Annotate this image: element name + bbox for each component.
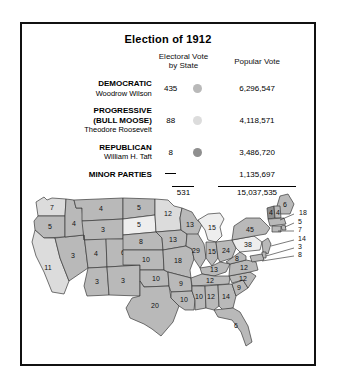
infographic-frame: Election of 1912 Electoral Vote by State… (20, 22, 316, 366)
svg-text:45: 45 (246, 226, 254, 233)
svg-text:3: 3 (71, 252, 75, 259)
candidate-name: Theodore Roosevelt (32, 125, 152, 135)
page-title: Election of 1912 (22, 33, 314, 45)
state-fl (214, 308, 252, 346)
state-ri (281, 225, 286, 230)
svg-text:3: 3 (95, 278, 99, 285)
header-electoral: Electoral Vote by State (157, 52, 210, 75)
table-header-row: Electoral Vote by State Popular Vote (32, 52, 304, 75)
svg-text:12: 12 (164, 210, 172, 217)
svg-text:24: 24 (222, 247, 230, 254)
popular-votes: 3,486,720 (210, 139, 304, 166)
electoral-votes: 88 (157, 102, 185, 139)
svg-text:12: 12 (206, 277, 214, 284)
svg-text:6: 6 (283, 201, 287, 208)
us-electoral-map: 7 5 11 3 4 4 3 4 (22, 186, 314, 362)
party-cell-progressive: PROGRESSIVE (BULL MOOSE) Theodore Roosev… (32, 102, 157, 139)
svg-text:4: 4 (99, 205, 103, 212)
popular-votes: 4,118,571 (210, 102, 304, 139)
table-row: REPUBLICAN William H. Taft 8 3,486,720 (32, 139, 304, 166)
svg-text:29: 29 (192, 247, 200, 254)
svg-text:18: 18 (174, 257, 182, 264)
results-table: Electoral Vote by State Popular Vote DEM… (32, 52, 304, 197)
svg-text:20: 20 (151, 302, 159, 309)
table-row: MINOR PARTIES 1,135,697 (32, 166, 304, 184)
svg-text:5: 5 (48, 223, 52, 230)
header-spacer (32, 52, 157, 75)
color-swatch-cell (185, 166, 211, 184)
svg-text:15: 15 (208, 224, 216, 231)
svg-text:5: 5 (137, 221, 141, 228)
header-popular: Popular Vote (210, 52, 304, 75)
svg-text:7: 7 (50, 204, 54, 211)
color-swatch-cell (185, 139, 211, 166)
color-swatch-democratic (193, 84, 202, 93)
svg-text:14: 14 (222, 293, 230, 300)
party-name: PROGRESSIVE (32, 106, 152, 116)
svg-text:13: 13 (186, 221, 194, 228)
party-name: MINOR PARTIES (32, 170, 152, 180)
state-ne (123, 232, 163, 250)
svg-text:3: 3 (121, 277, 125, 284)
svg-text:13: 13 (210, 266, 218, 273)
popular-votes: 1,135,697 (210, 166, 304, 184)
svg-text:9: 9 (237, 284, 241, 291)
candidate-name: Woodrow Wilson (32, 89, 152, 99)
svg-text:13: 13 (169, 236, 177, 243)
svg-text:15: 15 (208, 248, 216, 255)
svg-text:3: 3 (101, 226, 105, 233)
state-ma (268, 218, 286, 226)
electoral-votes: 435 (157, 75, 185, 102)
svg-text:10: 10 (152, 275, 160, 282)
callout-md: 8 (298, 251, 302, 258)
svg-text:12: 12 (239, 275, 247, 282)
svg-text:4: 4 (72, 220, 76, 227)
callout-ma: 18 (299, 209, 307, 216)
svg-text:4: 4 (94, 250, 98, 257)
party-name: DEMOCRATIC (32, 79, 152, 89)
popular-votes: 6,296,547 (210, 75, 304, 102)
svg-text:4: 4 (276, 209, 280, 216)
svg-text:8: 8 (139, 238, 143, 245)
color-swatch-cell (185, 102, 211, 139)
em-dash-icon (165, 173, 176, 174)
party-cell-democratic: DEMOCRATIC Woodrow Wilson (32, 75, 157, 102)
party-name-line2: (BULL MOOSE) (32, 116, 152, 126)
party-cell-republican: REPUBLICAN William H. Taft (32, 139, 157, 166)
svg-text:10: 10 (142, 256, 150, 263)
svg-text:5: 5 (137, 204, 141, 211)
svg-text:38: 38 (244, 241, 252, 248)
svg-text:6: 6 (234, 322, 238, 329)
svg-text:12: 12 (207, 293, 215, 300)
svg-text:12: 12 (240, 264, 248, 271)
color-swatch-progressive (193, 116, 202, 125)
svg-text:11: 11 (44, 264, 51, 271)
table-row: DEMOCRATIC Woodrow Wilson 435 6,296,547 (32, 75, 304, 102)
svg-text:4: 4 (269, 209, 273, 216)
map-states: 7 5 11 3 4 4 3 4 (32, 194, 294, 346)
candidate-name: William H. Taft (32, 152, 152, 162)
electoral-votes: 8 (157, 139, 185, 166)
callout-ri: 5 (298, 218, 302, 225)
color-swatch-cell (185, 75, 211, 102)
state-md (250, 254, 264, 262)
svg-text:9: 9 (179, 280, 183, 287)
svg-text:10: 10 (180, 296, 188, 303)
electoral-votes (157, 166, 185, 184)
svg-text:10: 10 (195, 293, 203, 300)
callout-ct: 7 (298, 226, 302, 233)
color-swatch-republican (193, 148, 202, 157)
table-row: PROGRESSIVE (BULL MOOSE) Theodore Roosev… (32, 102, 304, 139)
callout-de: 3 (298, 243, 302, 250)
svg-text:8: 8 (235, 255, 239, 262)
party-name: REPUBLICAN (32, 143, 152, 153)
callout-nj: 14 (298, 235, 306, 242)
state-nj (262, 238, 271, 254)
party-cell-minor: MINOR PARTIES (32, 166, 157, 184)
